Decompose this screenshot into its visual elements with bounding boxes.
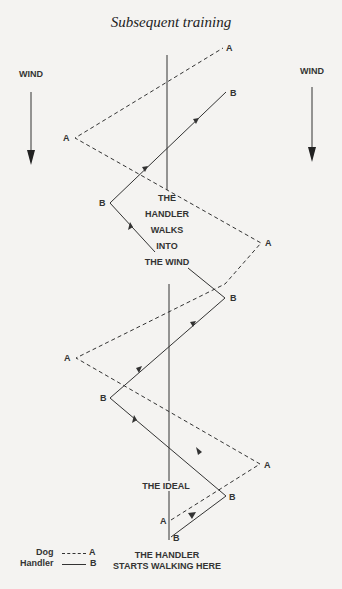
point-a: A <box>265 238 272 248</box>
wind-label-right: WIND <box>300 66 324 76</box>
point-a: A <box>63 133 70 143</box>
walk-annotation-2: HANDLER <box>145 209 189 219</box>
walk-annotation-4: INTO <box>156 241 177 251</box>
legend-dog-point: A <box>89 547 96 557</box>
point-a-start: A <box>160 516 167 526</box>
dog-path <box>75 48 261 520</box>
point-b-start: B <box>173 533 180 543</box>
legend-dog-label: Dog <box>36 547 54 557</box>
wind-label-left: WIND <box>19 69 43 79</box>
point-b: B <box>230 88 237 98</box>
legend-dog-line <box>62 553 86 554</box>
start-label-1: THE HANDLER <box>135 550 200 560</box>
point-a: A <box>226 43 233 53</box>
legend-handler-point: B <box>90 558 97 568</box>
point-b: B <box>100 393 107 403</box>
walk-annotation-5: THE WIND <box>145 257 190 267</box>
point-b: B <box>230 293 237 303</box>
point-a: A <box>64 353 71 363</box>
point-b: B <box>99 198 106 208</box>
ideal-label: THE IDEAL <box>140 481 192 491</box>
legend-handler-label: Handler <box>20 558 54 568</box>
start-label-2: STARTS WALKING HERE <box>113 561 221 571</box>
walk-annotation-1: THE <box>158 193 176 203</box>
legend-handler-line <box>62 564 86 565</box>
walk-annotation-3: WALKS <box>151 225 184 235</box>
point-a: A <box>264 460 271 470</box>
point-b: B <box>229 492 236 502</box>
zigzag-diagram <box>0 0 342 589</box>
